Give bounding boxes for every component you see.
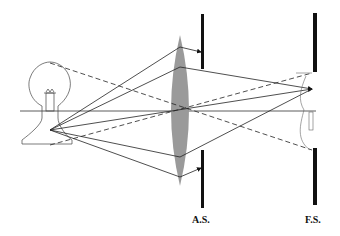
light-bulb xyxy=(22,62,72,144)
field-stop-label: F.S. xyxy=(305,214,321,225)
aperture-stop-top xyxy=(201,14,204,69)
field-stop-top xyxy=(313,13,317,72)
ray-diagram xyxy=(0,0,340,236)
inverted-bulb-image xyxy=(296,73,313,150)
aperture-stop-bottom xyxy=(201,150,204,208)
field-stop-bottom xyxy=(313,148,317,205)
aperture-stop-label: A.S. xyxy=(192,214,210,225)
